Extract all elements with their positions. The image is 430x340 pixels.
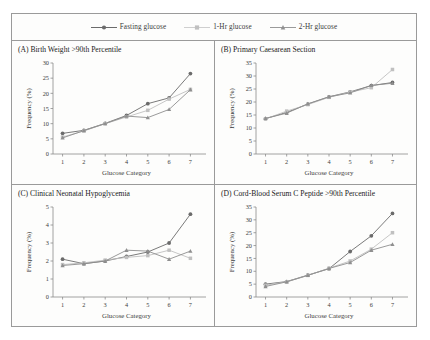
- panel-chart-svg: 051015202530351234567Glucose CategoryFre…: [215, 198, 416, 327]
- data-point-marker: [125, 256, 129, 260]
- y-tick-label: 15: [43, 105, 49, 112]
- x-tick-label: 3: [306, 301, 309, 308]
- data-point-marker: [391, 231, 395, 235]
- panel-b-title: (B) Primary Caesarean Section: [221, 45, 315, 54]
- series-line: [266, 233, 393, 285]
- legend-label-2hr-glucose: 2-Hr glucose: [299, 23, 338, 31]
- data-point-marker: [189, 72, 193, 76]
- x-tick-label: 6: [168, 158, 171, 165]
- x-tick-label: 2: [285, 158, 288, 165]
- y-axis-label: Frequency (%): [228, 88, 236, 129]
- data-point-marker: [188, 249, 192, 253]
- panel-chart-svg: 0510152025301234567Glucose CategoryFrequ…: [12, 54, 214, 184]
- panel-d: (D) Cord-Blood Serum C Peptide >90th Per…: [214, 184, 416, 327]
- y-tick-label: 20: [246, 242, 252, 249]
- x-tick-label: 4: [327, 158, 331, 165]
- data-point-marker: [189, 257, 193, 261]
- data-series: [264, 81, 395, 121]
- x-tick-label: 4: [125, 301, 129, 308]
- x-tick-label: 6: [370, 158, 373, 165]
- y-tick-label: 0: [46, 150, 49, 157]
- x-tick-label: 1: [61, 158, 64, 165]
- y-tick-label: 25: [246, 85, 252, 92]
- y-tick-label: 4: [46, 221, 50, 228]
- data-point-marker: [369, 234, 373, 238]
- data-point-marker: [348, 250, 352, 254]
- x-tick-label: 7: [391, 301, 394, 308]
- x-tick-label: 6: [370, 301, 373, 308]
- y-tick-label: 10: [246, 267, 252, 274]
- legend-marker-square-icon: [184, 23, 210, 32]
- y-tick-label: 20: [43, 90, 49, 97]
- panel-d-title: (D) Cord-Blood Serum C Peptide >90th Per…: [221, 189, 375, 198]
- data-point-marker: [167, 241, 171, 245]
- panel-d-plot: 051015202530351234567Glucose CategoryFre…: [215, 198, 416, 327]
- panel-c-title: (C) Clinical Neonatal Hypoglycemia: [18, 189, 130, 198]
- x-tick-label: 7: [189, 158, 192, 165]
- data-point-marker: [146, 109, 150, 113]
- panel-c: (C) Clinical Neonatal Hypoglycemia 01234…: [12, 184, 214, 327]
- x-tick-label: 3: [104, 158, 107, 165]
- y-axis-label: Frequency (%): [25, 88, 33, 129]
- y-tick-label: 3: [46, 239, 49, 246]
- y-tick-label: 5: [46, 135, 49, 142]
- panel-a-plot: 0510152025301234567Glucose CategoryFrequ…: [12, 54, 214, 184]
- y-tick-label: 0: [46, 293, 49, 300]
- legend-marker-triangle-icon: [270, 23, 296, 32]
- x-tick-label: 1: [264, 301, 267, 308]
- legend-marker-circle-icon: [91, 23, 117, 32]
- panel-b-plot: 051015202530351234567Glucose CategoryFre…: [215, 54, 416, 184]
- y-tick-label: 30: [246, 216, 252, 223]
- data-point-marker: [391, 68, 395, 72]
- y-tick-label: 35: [246, 59, 252, 66]
- data-point-marker: [61, 257, 65, 261]
- y-tick-label: 10: [246, 124, 252, 131]
- data-point-marker: [167, 248, 171, 252]
- x-tick-label: 2: [82, 301, 85, 308]
- y-tick-label: 10: [43, 120, 49, 127]
- x-axis-label: Glucose Category: [305, 169, 354, 176]
- x-tick-label: 4: [125, 158, 129, 165]
- data-series: [264, 68, 394, 121]
- y-tick-label: 30: [43, 59, 49, 66]
- y-tick-label: 5: [249, 137, 252, 144]
- x-tick-label: 5: [349, 158, 352, 165]
- y-tick-label: 2: [46, 257, 49, 264]
- series-line: [266, 83, 393, 119]
- series-line: [266, 70, 393, 119]
- x-tick-label: 5: [146, 301, 149, 308]
- data-point-marker: [390, 242, 394, 246]
- x-tick-label: 6: [168, 301, 171, 308]
- y-tick-label: 30: [246, 72, 252, 79]
- y-axis-label: Frequency (%): [25, 232, 33, 273]
- x-tick-label: 2: [285, 301, 288, 308]
- x-tick-label: 1: [264, 158, 267, 165]
- x-tick-label: 5: [349, 301, 352, 308]
- data-series: [263, 81, 394, 120]
- panel-b: (B) Primary Caesarean Section 0510152025…: [214, 41, 416, 184]
- panel-chart-svg: 0123451234567Glucose CategoryFrequency (…: [12, 198, 214, 327]
- data-point-marker: [146, 102, 150, 106]
- x-tick-label: 7: [391, 158, 394, 165]
- legend-item-1hr-glucose: 1-Hr glucose: [184, 23, 252, 32]
- panel-c-plot: 0123451234567Glucose CategoryFrequency (…: [12, 198, 214, 327]
- y-axis-label: Frequency (%): [228, 232, 236, 273]
- panel-a-title: (A) Birth Weight >90th Percentile: [18, 45, 122, 54]
- y-tick-label: 1: [46, 275, 49, 282]
- legend-label-fasting-glucose: Fasting glucose: [120, 23, 166, 31]
- y-tick-label: 25: [43, 74, 49, 81]
- y-tick-label: 15: [246, 255, 252, 262]
- series-line: [266, 213, 393, 284]
- panel-chart-svg: 051015202530351234567Glucose CategoryFre…: [215, 54, 416, 184]
- x-tick-label: 1: [61, 301, 64, 308]
- legend-label-1hr-glucose: 1-Hr glucose: [213, 23, 252, 31]
- x-tick-label: 3: [306, 158, 309, 165]
- x-axis-label: Glucose Category: [102, 312, 151, 319]
- y-tick-label: 35: [246, 203, 252, 210]
- y-tick-label: 20: [246, 98, 252, 105]
- data-series: [264, 231, 394, 287]
- y-tick-label: 5: [249, 280, 252, 287]
- series-line: [63, 89, 191, 137]
- y-tick-label: 15: [246, 111, 252, 118]
- y-tick-label: 5: [46, 203, 49, 210]
